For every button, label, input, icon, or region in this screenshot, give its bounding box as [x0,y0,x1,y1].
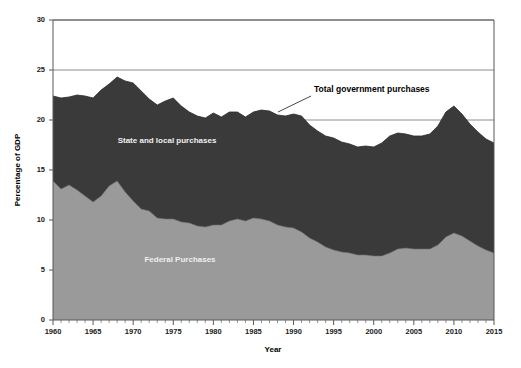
x-tick-label-1975: 1975 [165,327,182,336]
stacked-area-chart: 051015202530 196019651970197519801985199… [0,0,521,368]
annotation-state-and-local-purchases: State and local purchases [118,136,217,145]
y-tick-label-20: 20 [37,115,45,124]
y-axis-title: Percentage of GDP [13,133,22,206]
x-tick-label-2000: 2000 [365,327,382,336]
annotation-federal-purchases: Federal Purchases [144,255,216,264]
x-tick-label-2010: 2010 [446,327,463,336]
x-tick-label-2005: 2005 [405,327,422,336]
y-tick-label-5: 5 [41,265,45,274]
x-tick-label-1985: 1985 [245,327,262,336]
x-tick-label-1970: 1970 [125,327,142,336]
y-tick-label-0: 0 [41,315,45,324]
y-tick-label-30: 30 [37,15,45,24]
chart-container: 051015202530 196019651970197519801985199… [0,0,521,368]
annotation-total-government-purchases: Total government purchases [314,84,430,94]
x-tick-label-2015: 2015 [486,327,503,336]
y-tick-label-25: 25 [37,65,45,74]
x-tick-label-1965: 1965 [85,327,102,336]
x-tick-label-1995: 1995 [325,327,342,336]
x-tick-label-1960: 1960 [45,327,62,336]
x-tick-label-1980: 1980 [205,327,222,336]
y-tick-label-10: 10 [37,215,45,224]
x-axis-title: Year [265,345,282,354]
x-tick-label-1990: 1990 [285,327,302,336]
y-tick-label-15: 15 [37,165,45,174]
